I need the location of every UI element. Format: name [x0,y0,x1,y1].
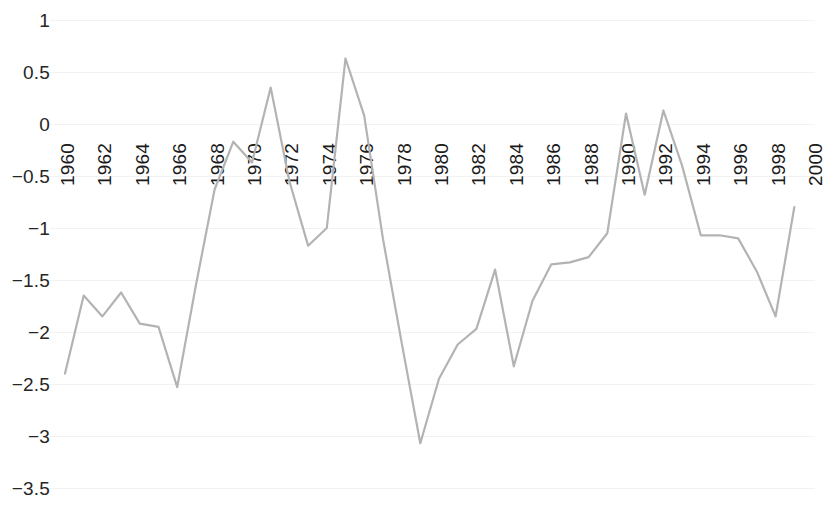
y-axis-tick-label: −1.5 [4,271,50,290]
y-axis-tick-label: −2 [4,323,50,342]
y-axis-tick-label: −3.5 [4,479,50,498]
y-axis-tick-label: 1 [4,11,50,30]
plot-area: 1960196219641966196819701972197419761978… [50,0,815,509]
data-series-layer [50,0,815,509]
y-axis-tick-label: −2.5 [4,375,50,394]
y-axis-tick-label: −3 [4,427,50,446]
y-axis-tick-label: −0.5 [4,167,50,186]
y-axis: 10.50−0.5−1−1.5−2−2.5−3−3.5 [0,0,50,509]
series-line-series-1 [65,58,794,443]
y-axis-tick-label: −1 [4,219,50,238]
y-axis-tick-label: 0 [4,115,50,134]
y-axis-tick-label: 0.5 [4,63,50,82]
